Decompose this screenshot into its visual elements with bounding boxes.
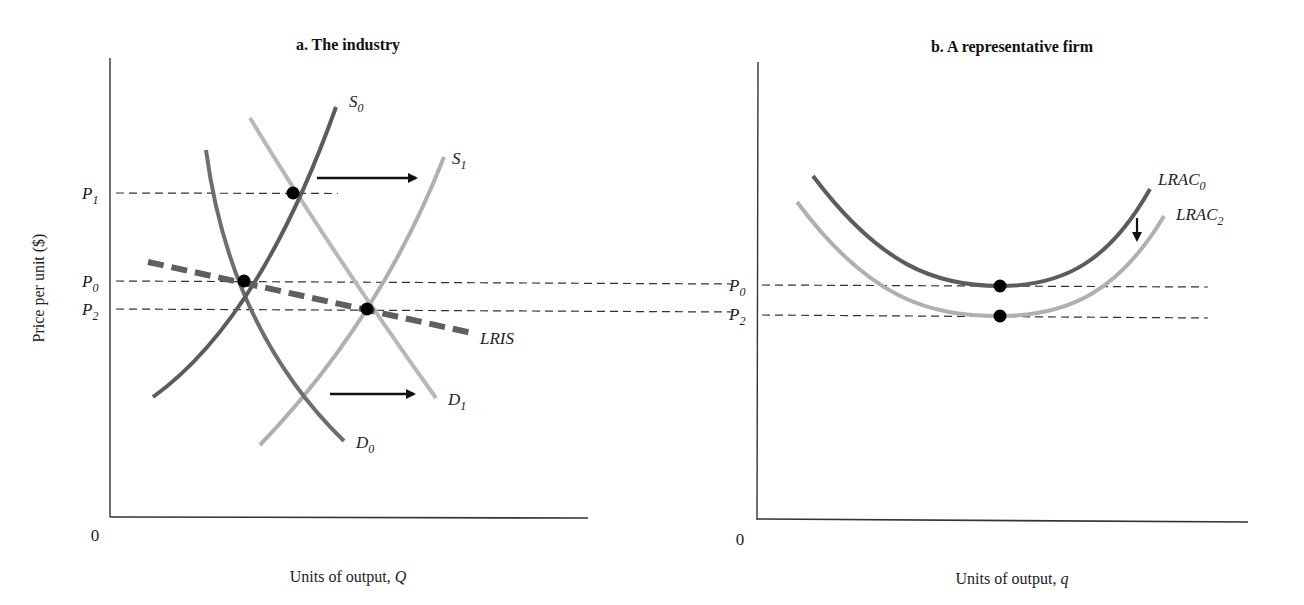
curve-lris: [148, 262, 472, 333]
label-s0: S0: [349, 92, 364, 115]
panel-industry: a. The industry Price per unit ($) 0 Uni…: [30, 36, 733, 586]
x-axis-label: Units of output, Q: [290, 568, 407, 586]
curve-lrac0: [813, 176, 1150, 286]
panel-firm: b. A representative firm 0 Units of outp…: [728, 38, 1248, 588]
label-d1: D1: [447, 390, 466, 413]
tick-b-p2: P2: [728, 305, 745, 328]
diagram-canvas: a. The industry Price per unit ($) 0 Uni…: [0, 0, 1304, 605]
y-axis-label: Price per unit ($): [30, 234, 48, 343]
origin-label-b: 0: [736, 530, 745, 549]
equilibrium-dot-p1: [287, 187, 300, 200]
tick-p2: P2: [81, 300, 98, 323]
lrac2-min-dot: [994, 310, 1007, 323]
equilibrium-dot-p2: [361, 303, 374, 316]
panel-a-title: a. The industry: [296, 36, 400, 54]
p2-dashed-line: [116, 309, 733, 312]
label-d0: D0: [355, 433, 374, 456]
curve-s1: [260, 157, 444, 445]
lrac0-min-dot: [994, 280, 1007, 293]
panel-b-title: b. A representative firm: [931, 38, 1094, 56]
tick-p1: P1: [81, 184, 98, 207]
label-lris: LRIS: [479, 329, 515, 348]
x-axis-b: [757, 519, 1248, 522]
x-axis: [110, 517, 588, 518]
equilibrium-dot-p0: [238, 275, 251, 288]
curve-s0: [153, 107, 336, 397]
label-lrac0: LRAC0: [1157, 170, 1206, 193]
tick-b-p0: P0: [728, 276, 745, 299]
p1-dashed-line: [116, 193, 338, 194]
x-axis-label-b: Units of output, q: [956, 570, 1069, 588]
y-axis-b: [757, 62, 758, 520]
p0-dashed-line: [116, 281, 733, 284]
label-lrac2: LRAC2: [1175, 205, 1224, 228]
label-s1: S1: [452, 149, 467, 172]
tick-p0: P0: [81, 272, 98, 295]
origin-label: 0: [91, 526, 100, 545]
